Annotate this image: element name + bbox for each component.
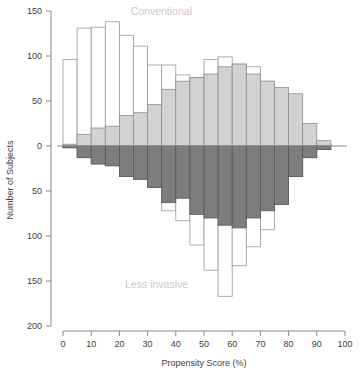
histogram-bar bbox=[77, 134, 91, 146]
histogram-bar bbox=[148, 146, 162, 187]
histogram-bar bbox=[204, 74, 218, 146]
histogram-bar bbox=[148, 105, 162, 146]
histogram-bar bbox=[218, 67, 232, 146]
histogram-bar bbox=[119, 146, 133, 177]
y-axis-tick-label: 150 bbox=[27, 6, 42, 16]
x-axis-tick-label: 80 bbox=[284, 339, 294, 349]
y-axis-tick-label: 150 bbox=[27, 276, 42, 286]
histogram-bar bbox=[77, 28, 91, 146]
x-axis: 0102030405060708090100 bbox=[60, 331, 352, 349]
histogram-bar bbox=[134, 113, 148, 146]
histogram-bar bbox=[232, 146, 246, 228]
x-axis-tick-label: 40 bbox=[171, 339, 181, 349]
y-axis-title: Number of Subjects bbox=[5, 140, 15, 220]
histogram-bar bbox=[317, 146, 331, 150]
histogram-bar bbox=[190, 146, 204, 214]
histogram-bar bbox=[275, 88, 289, 147]
y-axis-tick-label: 100 bbox=[27, 51, 42, 61]
histogram-bar bbox=[289, 94, 303, 146]
histogram-bar bbox=[176, 81, 190, 146]
x-axis-tick-label: 50 bbox=[199, 339, 209, 349]
bars-group bbox=[63, 22, 331, 297]
x-axis-tick-label: 20 bbox=[114, 339, 124, 349]
histogram-bar bbox=[162, 89, 176, 146]
x-axis-tick-label: 100 bbox=[337, 339, 352, 349]
histogram-bar bbox=[246, 74, 260, 146]
histogram-bar bbox=[246, 146, 260, 218]
y-axis-tick-label: 50 bbox=[32, 96, 42, 106]
histogram-bar bbox=[119, 115, 133, 146]
histogram-bar bbox=[105, 126, 119, 146]
y-axis-tick-label: 100 bbox=[27, 231, 42, 241]
histogram-bar bbox=[204, 146, 218, 218]
group-annotation-label: Less invasive bbox=[125, 278, 188, 290]
histogram-bar bbox=[77, 146, 91, 158]
histogram-bar bbox=[260, 146, 274, 211]
histogram-bar bbox=[289, 146, 303, 177]
histogram-bar bbox=[63, 60, 77, 146]
x-axis-tick-label: 10 bbox=[86, 339, 96, 349]
histogram-bar bbox=[162, 146, 176, 203]
y-axis-tick-label: 200 bbox=[27, 321, 42, 331]
histogram-bar bbox=[190, 78, 204, 146]
histogram-bar bbox=[232, 64, 246, 146]
x-axis-tick-label: 0 bbox=[60, 339, 65, 349]
x-axis-tick-label: 90 bbox=[312, 339, 322, 349]
histogram-bar bbox=[91, 146, 105, 164]
histogram-bar bbox=[91, 128, 105, 146]
histogram-bar bbox=[303, 124, 317, 147]
y-axis-tick-label: 50 bbox=[32, 186, 42, 196]
x-axis-tick-label: 70 bbox=[255, 339, 265, 349]
histogram-bar bbox=[260, 81, 274, 146]
y-axis-tick-label: 0 bbox=[37, 141, 42, 151]
histogram-bar bbox=[218, 146, 232, 225]
histogram-bar bbox=[303, 146, 317, 158]
propensity-score-histogram-figure: 15010050050100150200 0102030405060708090… bbox=[0, 0, 362, 376]
histogram-bar bbox=[134, 146, 148, 179]
group-annotation-label: Conventional bbox=[131, 5, 192, 17]
y-axis: 15010050050100150200 bbox=[27, 6, 51, 331]
x-axis-tick-label: 30 bbox=[143, 339, 153, 349]
histogram-bar bbox=[176, 146, 190, 198]
x-axis-title: Propensity Score (%) bbox=[161, 358, 246, 368]
histogram-bar bbox=[317, 141, 331, 146]
histogram-bar bbox=[105, 146, 119, 166]
x-axis-tick-label: 60 bbox=[227, 339, 237, 349]
chart-canvas: 15010050050100150200 0102030405060708090… bbox=[0, 0, 362, 376]
histogram-bar bbox=[275, 146, 289, 205]
